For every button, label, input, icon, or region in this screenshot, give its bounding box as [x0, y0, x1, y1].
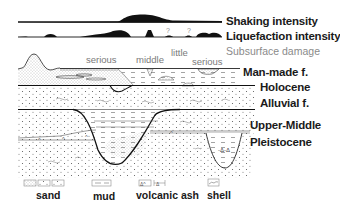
svg-text:^: ^	[38, 137, 41, 143]
mud-pattern-icon	[92, 180, 111, 186]
uncertain-mark: ?	[187, 27, 191, 34]
stratum-label-man-made-fill: Man-made f.	[243, 67, 308, 79]
legend-icons: Δ^ Δ	[24, 179, 219, 187]
svg-text:^: ^	[170, 130, 173, 136]
shaking-intensity-bar	[18, 14, 222, 22]
stratum-label-holocene: Holocene	[260, 82, 310, 94]
legend-label-sand: sand	[36, 190, 61, 201]
damage-level-serious-left: serious	[86, 55, 117, 65]
stratum-label-alluvial-fill: Alluvial f.	[260, 98, 309, 110]
liquefaction-intensity-bar	[18, 30, 222, 37]
stratum-label-pleistocene: Pleistocene	[250, 137, 312, 149]
stratum-label-upper-middle: Upper-Middle	[250, 120, 321, 132]
svg-text:^: ^	[85, 134, 88, 140]
legend-label-volcanic-ash: volcanic ash	[136, 190, 199, 201]
damage-level-little: little	[171, 48, 188, 58]
volcanic-ash-pattern-icon: Δ^ Δ	[139, 180, 165, 187]
strata-layers: ^ ^ ^ ^ -Δ-Δ	[18, 54, 255, 178]
damage-level-middle: middle	[136, 55, 164, 65]
damage-level-serious-right: serious	[192, 57, 223, 67]
subsurface-damage-label: Subsurface damage	[226, 46, 320, 57]
liquefaction-intensity-label: Liquefaction intensity	[226, 31, 340, 43]
shell-pattern-icon	[208, 179, 219, 186]
uncertain-mark: ?	[166, 27, 170, 34]
svg-text:Δ^: Δ^	[140, 181, 146, 187]
sand-pattern-icon	[24, 180, 64, 186]
legend-label-shell: shell	[207, 190, 231, 201]
shaking-intensity-label: Shaking intensity	[226, 16, 318, 28]
legend-label-mud: mud	[93, 191, 115, 202]
svg-text:-Δ-Δ: -Δ-Δ	[218, 147, 230, 153]
svg-text:^: ^	[62, 136, 65, 142]
svg-text:Δ: Δ	[156, 181, 160, 187]
